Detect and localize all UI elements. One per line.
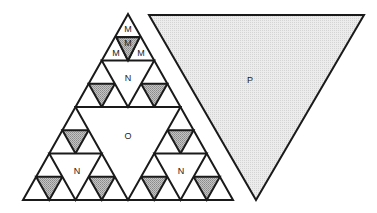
label-n-left: N	[74, 166, 81, 176]
label-n-right: N	[178, 166, 185, 176]
label-n-top: N	[125, 73, 132, 83]
label-m-left: M	[112, 48, 120, 58]
label-p: P	[247, 75, 253, 85]
label-m-center: M	[124, 38, 132, 48]
sierpinski-diagram: M M M M N N N O P	[0, 0, 377, 213]
label-m-right: M	[137, 48, 145, 58]
label-o: O	[124, 131, 131, 141]
label-m-top: M	[124, 24, 132, 34]
